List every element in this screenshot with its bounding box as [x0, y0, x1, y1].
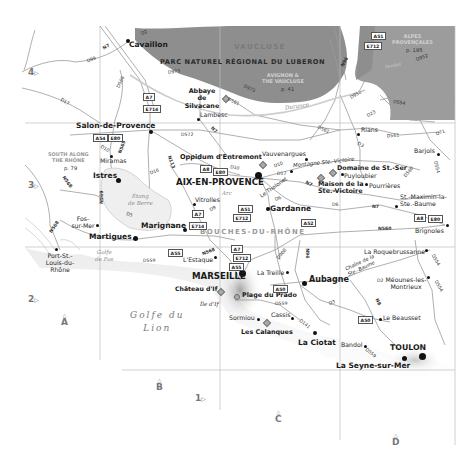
rians-dot — [357, 133, 360, 136]
shield-a52: A52 — [301, 219, 316, 227]
xref-avignon-page[interactable]: p. 41 — [281, 87, 294, 92]
shield-a55b: A55 — [229, 263, 244, 271]
triangle-right-icon: ▷ — [201, 395, 206, 402]
shield-a8b: A8 — [414, 214, 426, 222]
region-vaucluse-label: VAUCLUSE — [234, 44, 286, 51]
label-meounes[interactable]: Méounes-les-Montrieux — [383, 276, 429, 291]
shield-a55a: A55 — [168, 249, 183, 257]
label-seyne[interactable]: La Seyne-sur-Mer — [336, 362, 410, 370]
label-oppidum[interactable]: Oppidum d'Entremont — [180, 154, 262, 161]
label-vauvenargues[interactable]: Vauvenargues — [262, 151, 306, 157]
label-iledif[interactable]: Île d'If — [200, 301, 219, 308]
label-istres[interactable]: Istres — [93, 172, 117, 180]
road-d2b: D2 — [377, 279, 383, 284]
xref-south-rhone[interactable]: SOUTH ALONG THE RHÔNE — [48, 152, 89, 164]
label-brignoles[interactable]: Brignoles — [415, 228, 444, 234]
shield-e712b: E712 — [233, 214, 251, 222]
label-lambesc[interactable]: Lambesc — [200, 112, 228, 118]
label-portstlouis[interactable]: Port-St.-Louis-du-Rhône — [40, 252, 80, 273]
cassis-dot — [291, 317, 294, 320]
label-calanques[interactable]: Les Calanques — [241, 329, 293, 335]
label-treille[interactable]: La Treille — [257, 270, 284, 276]
label-rians[interactable]: Rians — [361, 127, 378, 133]
label-domaine[interactable]: Domaine de St.-Ser — [337, 165, 407, 171]
shield-e80c: E80 — [428, 215, 443, 223]
label-martigues[interactable]: Martigues — [89, 233, 132, 241]
shield-a7b: A7 — [192, 210, 204, 218]
stmaximin-dot — [395, 205, 398, 208]
grid-row-2[interactable]: 2▷ — [28, 295, 39, 304]
road-d6b: D6 — [332, 203, 338, 208]
xref-south-page[interactable]: p. 79 — [64, 166, 77, 171]
label-vitrolles[interactable]: Vitrolles — [195, 197, 220, 203]
triangle-right-icon: ▷ — [34, 296, 39, 303]
salon-dot — [149, 130, 153, 134]
grid-col-b[interactable]: △B — [156, 378, 163, 392]
label-bandol[interactable]: Bandol — [341, 342, 362, 348]
estaque-dot — [214, 256, 217, 259]
label-aix[interactable]: AIX-EN-PROVENCE — [176, 178, 264, 187]
vitrolles-dot — [193, 203, 196, 206]
label-abbaye[interactable]: Abbaye de Silvacane — [184, 88, 220, 110]
label-toulon[interactable]: TOULON — [390, 344, 426, 352]
montagne-dot — [290, 170, 293, 173]
aubagne-dot — [302, 281, 307, 286]
label-cavaillon[interactable]: Cavaillon — [129, 41, 168, 49]
label-cassis[interactable]: Cassis — [271, 312, 291, 318]
label-gardanne[interactable]: Gardanne — [270, 205, 311, 213]
shield-a8a: A8 — [200, 165, 212, 173]
label-prado[interactable]: Plage du Prado — [242, 292, 297, 298]
triangle-right-icon: ▷ — [34, 182, 39, 189]
xref-avignon[interactable]: AVIGNON & THE VAUCLUSE — [262, 73, 304, 85]
xref-alpes-page[interactable]: p. 185 — [406, 48, 423, 53]
golfe-fos-label: Golfe de Fos — [95, 249, 113, 262]
road-n7d: N7 — [372, 205, 379, 210]
road-d559b: D559 — [275, 302, 287, 307]
lambesc-dot — [197, 118, 200, 121]
grid-col-c[interactable]: △C — [275, 410, 282, 424]
shield-e80b: E80 — [213, 168, 228, 176]
shield-a51a: A51 — [371, 32, 386, 40]
road-d559a: D559 — [143, 259, 155, 264]
road-n560: N560 — [378, 227, 391, 232]
label-marseille[interactable]: MARSEILLE — [192, 272, 246, 281]
grid-col-a[interactable]: △A — [61, 313, 68, 327]
label-fos[interactable]: Fos-sur-Mer — [71, 215, 95, 229]
treille-dot — [286, 271, 289, 274]
label-pourrieres[interactable]: Pourrières — [369, 183, 400, 189]
roquebrussanne-dot — [425, 249, 428, 252]
etang-label: Étang de Berre — [128, 193, 153, 206]
label-aubagne[interactable]: Aubagne — [309, 276, 349, 284]
triangle-right-icon: ▷ — [34, 69, 39, 76]
label-puyloubier[interactable]: Puyloubier — [344, 173, 377, 179]
xref-alpes[interactable]: ALPES PROVENÇALES — [392, 34, 433, 46]
shield-a50a: A50 — [273, 285, 288, 293]
label-ciotat[interactable]: La Ciotat — [298, 339, 336, 347]
grid-row-3[interactable]: 3▷ — [28, 181, 39, 190]
grid-col-d[interactable]: △D — [392, 433, 399, 447]
label-sormiou[interactable]: Sormiou — [229, 315, 255, 321]
label-stmaximin[interactable]: St.-Maximin-la-Ste.-Baume — [400, 193, 448, 208]
label-marignane[interactable]: Marignane — [141, 222, 186, 230]
label-barjols[interactable]: Barjols — [414, 148, 435, 154]
grid-row-4[interactable]: 4▷ — [28, 68, 39, 77]
label-salon[interactable]: Salon-de-Provence — [76, 122, 155, 130]
sea-label: Golfe du Lion — [130, 309, 185, 334]
shield-e712c: E712 — [233, 254, 251, 262]
label-estaque[interactable]: L'Estaque — [183, 257, 213, 263]
map-canvas: VAUCLUSE PARC NATUREL RÉGIONAL DU LUBERO… — [0, 0, 463, 457]
sormiou-dot — [257, 318, 260, 321]
label-chateau[interactable]: Château d'If — [175, 286, 217, 292]
barjols-dot — [437, 153, 440, 156]
label-maison[interactable]: Maison de la Ste.-Victoire — [318, 181, 364, 195]
arc-label: Arc — [222, 190, 232, 197]
shield-a50b: A50 — [358, 316, 373, 324]
toulon-dot — [419, 353, 426, 360]
portstlouis-dot — [55, 248, 58, 251]
label-miramas[interactable]: Miramas — [100, 158, 126, 164]
shield-e714b: E714 — [189, 222, 207, 230]
shield-a51b: A51 — [238, 205, 253, 213]
grid-row-1[interactable]: 1▷ — [195, 394, 206, 403]
fos-dot — [96, 224, 99, 227]
label-beausset[interactable]: Le Beausset — [383, 315, 421, 321]
